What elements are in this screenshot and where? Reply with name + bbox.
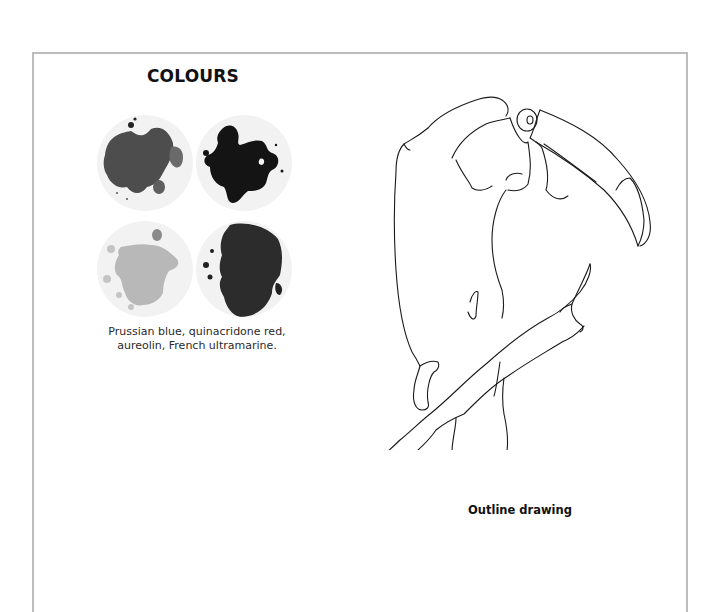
colours-caption: Prussian blue, quinacridone red, aureoli… <box>92 325 302 353</box>
swatch-french-ultramarine <box>196 221 292 317</box>
swatch-quinacridone-red <box>196 115 292 211</box>
caption-line-2: aureolin, French ultramarine. <box>92 339 302 353</box>
swatch-prussian-blue <box>97 115 193 211</box>
toucan-outline-drawing <box>340 80 670 450</box>
colours-heading: COLOURS <box>100 66 286 86</box>
swatch-aureolin <box>97 221 193 317</box>
outline-drawing-label: Outline drawing <box>468 503 572 517</box>
caption-line-1: Prussian blue, quinacridone red, <box>92 325 302 339</box>
